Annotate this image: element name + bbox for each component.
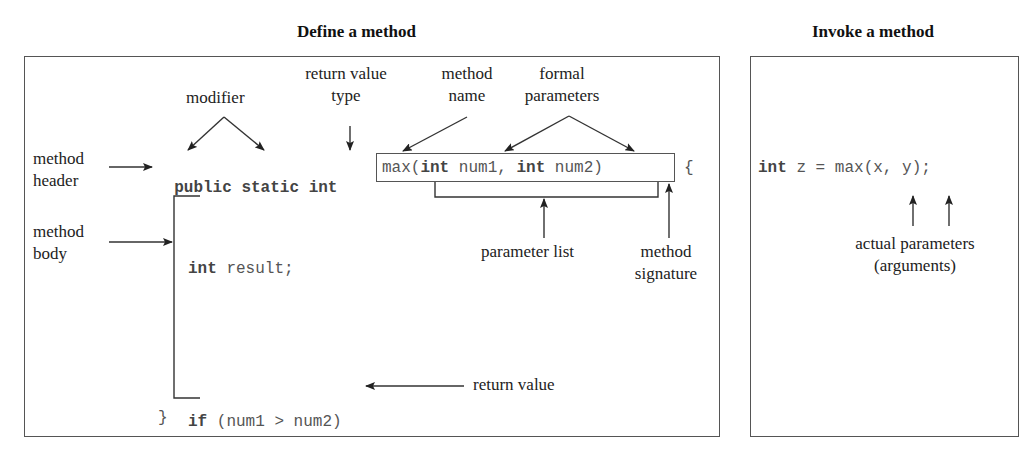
diagram-arrows bbox=[0, 0, 1032, 452]
